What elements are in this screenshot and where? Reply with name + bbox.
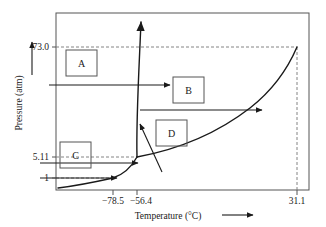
y-tick-label-1: 1 [44,173,49,183]
pointer-to-triple-point [140,124,162,172]
region-label-D: D [168,128,175,139]
sublimation-curve [58,157,137,188]
y-tick-label-73: 73.0 [32,42,49,52]
region-label-A: A [78,58,86,69]
y-tick-label-5: 5.11 [33,152,50,162]
x-axis-label: Temperature (°C) [135,211,202,222]
phase-diagram-svg: A B C D 73.0 5.11 1 −78.5 −56.4 31.1 Pre… [0,0,326,227]
fusion-curve [137,22,141,157]
region-label-C: C [72,150,79,161]
phase-diagram-figure: A B C D 73.0 5.11 1 −78.5 −56.4 31.1 Pre… [0,0,326,227]
vaporization-curve [137,47,297,157]
x-tick-label-56: −56.4 [130,196,152,206]
y-axis-label: Pressure (atm) [14,75,25,130]
region-label-B: B [185,85,192,96]
x-tick-label-31: 31.1 [289,196,306,206]
x-tick-label-78: −78.5 [102,196,124,206]
